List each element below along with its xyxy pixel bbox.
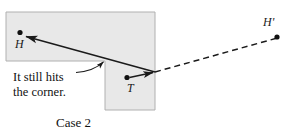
point-label-h: H	[15, 38, 24, 50]
virtual-ray-to-h-prime	[155, 39, 276, 73]
point-label-h-prime: H'	[263, 16, 274, 28]
annotation-line-1: It still hits	[13, 70, 64, 85]
point-label-t: T	[127, 82, 134, 94]
point-t-dot	[124, 75, 129, 80]
figure-case-2: H T H' It still hits the corner. Case 2	[0, 0, 286, 134]
annotation-leader-line	[76, 62, 104, 73]
point-h-prime-dot	[274, 34, 279, 39]
figure-caption: Case 2	[56, 116, 91, 129]
point-h-dot	[17, 30, 22, 35]
annotation-line-2: the corner.	[13, 85, 66, 100]
figure-canvas	[0, 0, 286, 134]
